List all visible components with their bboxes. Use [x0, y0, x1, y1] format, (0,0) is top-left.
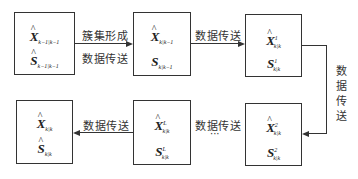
state-estimate-x: ^X2k|k [246, 119, 301, 140]
state-estimate-x: ^XLk|k [134, 117, 190, 138]
node-box-6: ^Xk|k ^Sk|k [16, 100, 73, 164]
connector-vertical [326, 45, 327, 134]
state-estimate-x: ^Xk|k [17, 117, 72, 136]
edge-label-data-transfer: 数据传送 [82, 50, 128, 66]
covariance-s: S2k|k [246, 144, 301, 165]
covariance-s: ^Sk|k [17, 142, 72, 161]
node-box-4: ^X2k|k S2k|k [245, 103, 302, 166]
arrow-line-1 [75, 43, 127, 44]
node-box-3: ^X1k|k S1k|k [245, 14, 302, 77]
covariance-s: ^Sk−1|k−1 [15, 54, 74, 73]
covariance-s: S1k|k [246, 55, 301, 76]
state-estimate-x: ^Xk|k−1 [134, 30, 190, 49]
node-box-5: ^XLk|k SLk|k [133, 100, 191, 165]
edge-label-data-transfer-vertical: 数据传送 [335, 64, 347, 124]
state-estimate-x: ^X1k|k [246, 32, 301, 53]
edge-label-cluster-formation: 簇集形成 [82, 27, 128, 43]
node-box-2: ^Xk|k−1 Sk|k−1 [133, 12, 191, 76]
connector-horizontal-top [302, 45, 327, 46]
arrowhead-left-icon [302, 131, 309, 137]
edge-label-data-transfer: 数据传送 [195, 27, 241, 43]
arrowhead-left-icon [73, 130, 80, 136]
covariance-s: SLk|k [134, 143, 190, 164]
edge-label-data-transfer: 数据传送 [83, 117, 129, 133]
arrow-line-2 [191, 43, 239, 44]
node-box-1: ^Xk−1|k−1 ^Sk−1|k−1 [14, 12, 75, 75]
ellipsis: ··· [210, 128, 220, 139]
covariance-s: Sk|k−1 [134, 55, 190, 74]
connector-horizontal-bottom [309, 133, 327, 134]
state-estimate-x: ^Xk−1|k−1 [15, 30, 74, 49]
